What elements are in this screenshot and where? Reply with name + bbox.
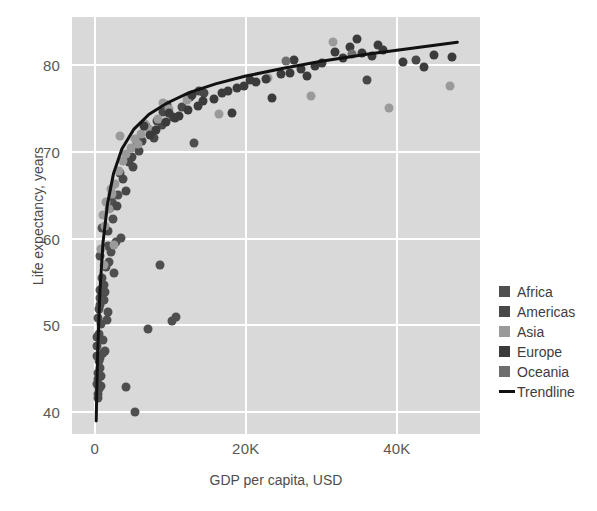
legend-item-label: Trendline xyxy=(517,385,575,399)
trendline-svg xyxy=(72,17,480,434)
legend-item-oceania[interactable]: Oceania xyxy=(499,362,593,381)
legend-line-swatch xyxy=(499,390,515,393)
y-tick-label-40: 40 xyxy=(0,404,60,421)
trendline-path xyxy=(96,42,457,421)
legend-item-label: Asia xyxy=(517,325,544,339)
legend-color-swatch xyxy=(499,306,510,317)
legend-item-asia[interactable]: Asia xyxy=(499,322,593,341)
y-axis-title: Life expectancy, years xyxy=(30,86,46,346)
x-tick-label-0: 0 xyxy=(55,440,135,457)
legend-item-label: Africa xyxy=(517,285,553,299)
legend-color-swatch xyxy=(499,346,510,357)
legend-item-label: Europe xyxy=(517,345,562,359)
x-tick-label-40K: 40K xyxy=(357,440,437,457)
legend-item-europe[interactable]: Europe xyxy=(499,342,593,361)
x-tick-label-20K: 20K xyxy=(206,440,286,457)
legend-item-label: Oceania xyxy=(517,365,569,379)
legend-item-africa[interactable]: Africa xyxy=(499,282,593,301)
legend-item-trendline[interactable]: Trendline xyxy=(499,382,593,401)
x-axis-title: GDP per capita, USD xyxy=(72,472,480,488)
chart-legend: AfricaAmericasAsiaEuropeOceaniaTrendline xyxy=(499,282,593,402)
chart-root: 4050607080 020K40K Life expectancy, year… xyxy=(0,0,597,511)
legend-color-swatch xyxy=(499,366,510,377)
scatter-plot-area[interactable] xyxy=(72,17,480,434)
legend-color-swatch xyxy=(499,286,510,297)
legend-item-label: Americas xyxy=(517,305,575,319)
legend-item-americas[interactable]: Americas xyxy=(499,302,593,321)
legend-color-swatch xyxy=(499,326,510,337)
y-tick-label-80: 80 xyxy=(0,56,60,73)
